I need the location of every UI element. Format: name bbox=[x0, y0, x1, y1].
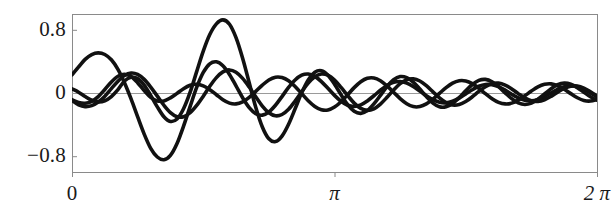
y-tick-label-1: 0 bbox=[55, 80, 66, 105]
x-tick-label-0: 0 bbox=[32, 181, 112, 206]
wave-plot-figure: 0.8 0 −0.8 0 π 2 π bbox=[0, 0, 613, 213]
y-tick-label-2: −0.8 bbox=[27, 143, 66, 168]
x-tick-label-2pi: 2 π bbox=[557, 181, 613, 206]
x-tick-label-pi: π bbox=[295, 181, 375, 206]
y-tick-label-0: 0.8 bbox=[39, 17, 66, 42]
